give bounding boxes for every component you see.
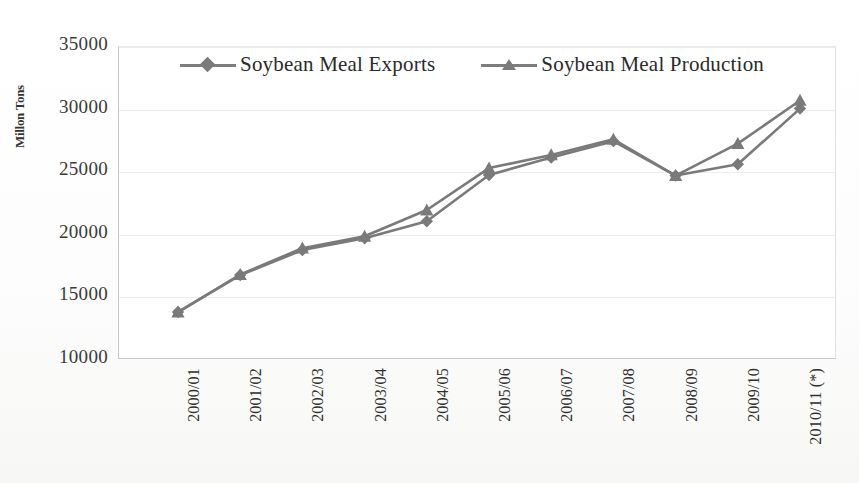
triangle-marker-icon (420, 203, 433, 215)
x-axis-tick-label: 2005/06 (496, 368, 514, 422)
legend-entry-production: Soybean Meal Production (481, 52, 764, 77)
x-axis-tick-label: 2004/05 (434, 368, 452, 422)
x-axis-tick-label: 2003/04 (372, 368, 390, 422)
series-line-production (178, 100, 800, 312)
chart-canvas: Millon Tons 3500030000250002000015000100… (0, 0, 859, 483)
x-axis-tick-label: 2009/10 (745, 368, 763, 422)
series-line-exports (178, 109, 800, 312)
chart-legend: Soybean Meal Exports Soybean Meal Produc… (180, 52, 764, 77)
x-axis-tick-label: 2001/02 (247, 368, 265, 422)
x-axis-tick-label: 2000/01 (185, 368, 203, 422)
triangle-marker-icon (607, 133, 620, 145)
x-axis-tick-label: 2010/11 (*) (807, 368, 825, 445)
footer-watermark (612, 462, 812, 476)
diamond-marker-icon (180, 58, 236, 72)
x-axis-tick-label: 2007/08 (620, 368, 638, 422)
x-axis-tick-label: 2008/09 (683, 368, 701, 422)
triangle-marker-icon (731, 137, 744, 149)
triangle-marker-icon (481, 58, 537, 72)
legend-label-production: Soybean Meal Production (541, 52, 764, 77)
triangle-marker-icon (793, 94, 806, 106)
x-axis-tick-label: 2002/03 (309, 368, 327, 422)
legend-label-exports: Soybean Meal Exports (240, 52, 435, 77)
x-axis-tick-label: 2006/07 (558, 368, 576, 422)
legend-entry-exports: Soybean Meal Exports (180, 52, 435, 77)
